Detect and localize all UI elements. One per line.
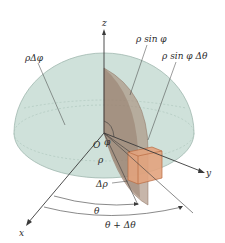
y-axis-arrow-icon xyxy=(198,168,205,173)
theta-delta-arc xyxy=(44,207,182,216)
y-axis-label: y xyxy=(205,168,212,178)
theta-arc-arrow-icon xyxy=(134,202,139,206)
label-delta-rho: Δρ xyxy=(95,179,108,189)
label-origin: O xyxy=(93,140,101,150)
label-rho-sin-phi: ρ sin φ xyxy=(135,34,167,44)
label-rho: ρ xyxy=(97,155,104,165)
z-axis-label: z xyxy=(101,18,107,28)
z-axis-arrow-icon xyxy=(102,29,106,35)
label-rho-sin-phi-delta-theta: ρ sin φ Δθ xyxy=(161,51,208,61)
x-axis-label: x xyxy=(19,228,24,238)
label-phi: φ xyxy=(104,137,111,147)
volume-element-box xyxy=(128,147,162,184)
label-theta: θ xyxy=(94,206,100,216)
x-axis-arrow-icon xyxy=(26,219,32,226)
label-theta-plus-delta-theta: θ + Δθ xyxy=(105,220,136,230)
spherical-coordinates-diagram: z y x ρΔφ ρ sin φ ρ sin φ Δθ O φ ρ Δρ θ … xyxy=(0,0,225,243)
label-rho-delta-phi: ρΔφ xyxy=(24,53,44,63)
theta-arc xyxy=(54,196,138,205)
